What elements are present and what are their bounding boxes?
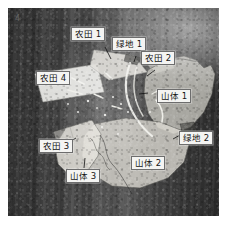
leader-greenspace-1 — [134, 56, 136, 62]
annotation-label-farmland-4[interactable]: 农田 4 — [36, 71, 70, 85]
annotation-label-farmland-1[interactable]: 农田 1 — [71, 27, 105, 41]
leader-mountain-1 — [139, 93, 148, 94]
annotation-label-farmland-2[interactable]: 农田 2 — [141, 51, 175, 65]
leader-mountain-3 — [84, 158, 85, 168]
annotation-label-mountain-1[interactable]: 山体 1 — [157, 89, 191, 103]
annotation-label-mountain-3[interactable]: 山体 3 — [66, 169, 100, 183]
annotated-image-figure: 4 农田 1 绿地 1 农田 2 农田 4 山体 1 绿地 2 农田 3 山体 … — [0, 0, 227, 225]
leader-farmland-2 — [147, 70, 155, 76]
annotation-label-greenspace-1[interactable]: 绿地 1 — [112, 37, 146, 51]
leader-farmland-1 — [105, 47, 111, 59]
annotation-label-greenspace-2[interactable]: 绿地 2 — [179, 131, 213, 145]
annotation-label-mountain-2[interactable]: 山体 2 — [131, 156, 165, 170]
annotation-label-farmland-3[interactable]: 农田 3 — [39, 139, 73, 153]
